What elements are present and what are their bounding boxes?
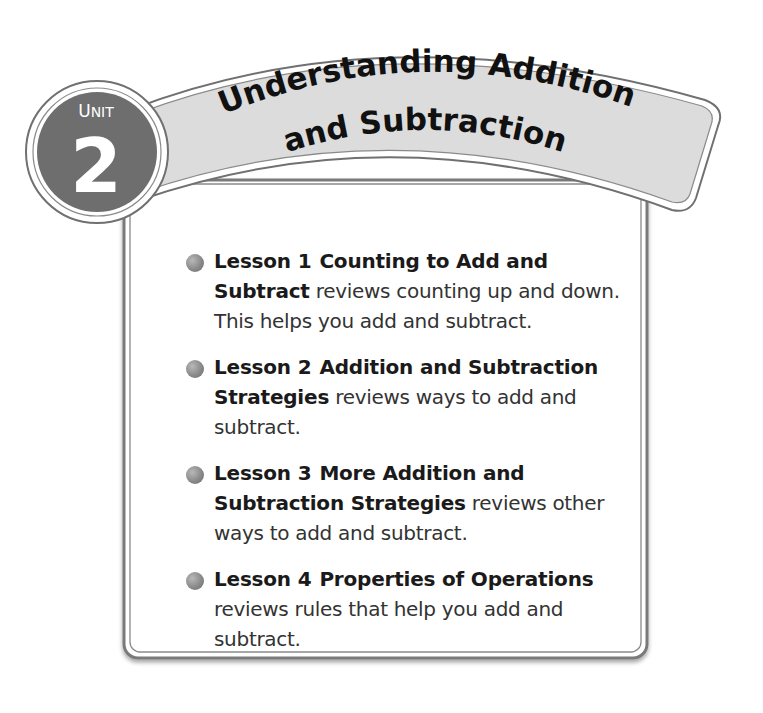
lesson-list: Lesson 1Counting to Add and Subtract rev…: [186, 246, 626, 670]
unit-label: UNIT: [78, 101, 114, 121]
bullet-icon: [186, 466, 204, 484]
lesson-number: Lesson 1: [214, 249, 311, 273]
bullet-icon: [186, 254, 204, 272]
lesson-item: Lesson 3More Addition and Subtraction St…: [186, 458, 626, 548]
lesson-number: Lesson 3: [214, 461, 311, 485]
lesson-item: Lesson 4Properties of Operations reviews…: [186, 564, 626, 654]
unit-badge: UNIT 2: [26, 81, 168, 223]
lesson-number: Lesson 2: [214, 355, 311, 379]
unit-number: 2: [70, 123, 122, 209]
bullet-icon: [186, 572, 204, 590]
unit-label-rest: NIT: [91, 104, 115, 120]
bullet-icon: [186, 360, 204, 378]
lesson-number: Lesson 4: [214, 567, 311, 591]
lesson-item: Lesson 2Addition and Subtraction Strateg…: [186, 352, 626, 442]
lesson-name: Properties of Operations: [319, 567, 593, 591]
lesson-title: Lesson 4Properties of Operations: [214, 567, 593, 591]
lesson-description: reviews rules that help you add and subt…: [214, 597, 563, 651]
unit-label-first: U: [78, 101, 90, 121]
lesson-item: Lesson 1Counting to Add and Subtract rev…: [186, 246, 626, 336]
